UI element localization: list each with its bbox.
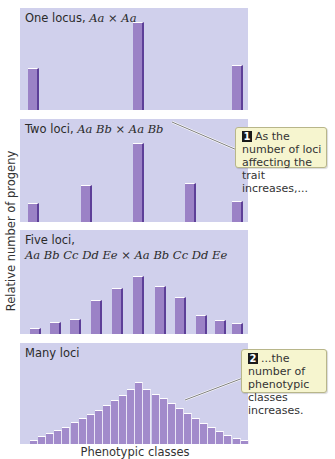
histogram-bar xyxy=(208,427,216,444)
histogram-bar xyxy=(176,408,184,444)
histogram-bar xyxy=(38,436,46,444)
histogram-bar xyxy=(46,433,54,444)
histogram-bar xyxy=(192,418,200,444)
x-axis-label: Phenotypic classes xyxy=(60,445,210,459)
panel-title-text: Five loci, xyxy=(25,234,227,247)
histogram-bar xyxy=(232,201,243,222)
histogram-bar xyxy=(127,389,135,444)
histogram-bar xyxy=(215,320,226,334)
callout-2: 2...the number of phenotypic classes inc… xyxy=(241,349,327,393)
panel-title-text: Many loci xyxy=(25,346,79,360)
histogram-bar xyxy=(71,422,79,444)
histogram-bar xyxy=(152,394,160,444)
histogram-bar xyxy=(233,438,241,444)
histogram-bar xyxy=(216,431,224,444)
y-axis-label: Relative number of progeny xyxy=(4,146,18,316)
panel-title-genotype: Aa Bb Cc Dd Ee × Aa Bb Cc Dd Ee xyxy=(25,249,227,262)
histogram-bar xyxy=(133,22,144,110)
histogram-bar xyxy=(133,276,144,334)
callout-text: As the number of loci affecting the trai… xyxy=(242,130,321,195)
histogram-bar xyxy=(50,322,61,334)
histogram-bar xyxy=(155,286,166,334)
histogram-bar xyxy=(184,413,192,444)
callout-1: 1As the number of loci affecting the tra… xyxy=(235,127,327,168)
panel-title: Many loci xyxy=(25,347,79,360)
step-number-badge: 2 xyxy=(248,353,258,364)
histogram-bar xyxy=(135,382,143,444)
panel-title-genotype: Aa × Aa xyxy=(89,11,136,25)
step-number-badge: 1 xyxy=(242,131,252,142)
histogram-bar xyxy=(62,427,70,444)
histogram-bar xyxy=(185,183,196,222)
histogram-bar xyxy=(87,414,95,444)
histogram-bar xyxy=(54,430,62,444)
histogram-bar xyxy=(111,400,119,444)
histogram-bar xyxy=(119,395,127,444)
histogram-bar xyxy=(175,297,186,334)
histogram-bar xyxy=(143,389,151,444)
panel-one-locus: One locus, Aa × Aa xyxy=(20,8,248,110)
histogram-bar xyxy=(103,405,111,444)
histogram-bar xyxy=(232,65,243,110)
panel-title: Two loci, Aa Bb × Aa Bb xyxy=(25,123,164,136)
panel-two-loci: Two loci, Aa Bb × Aa Bb xyxy=(20,119,248,222)
histogram-bar xyxy=(79,418,87,444)
histogram-bar xyxy=(160,398,168,444)
panel-five-loci: Five loci, Aa Bb Cc Dd Ee × Aa Bb Cc Dd … xyxy=(20,230,248,334)
histogram-bar xyxy=(196,315,207,334)
histogram-bar xyxy=(168,403,176,444)
panel-title: One locus, Aa × Aa xyxy=(25,12,137,25)
histogram-bar xyxy=(241,440,249,444)
histogram-bar xyxy=(91,300,102,334)
panel-many-loci: Many loci xyxy=(20,343,248,444)
histogram-bar xyxy=(112,288,123,334)
histogram-bar xyxy=(133,143,144,222)
histogram-bar xyxy=(28,68,39,110)
panel-title: Five loci, Aa Bb Cc Dd Ee × Aa Bb Cc Dd … xyxy=(25,234,227,262)
histogram-bar xyxy=(81,185,92,222)
histogram-bar xyxy=(28,203,39,222)
histogram-bar xyxy=(232,323,243,334)
histogram-bar xyxy=(200,423,208,444)
histogram-bar xyxy=(30,328,41,334)
histogram-bar xyxy=(30,440,38,444)
panel-title-text: One locus, xyxy=(25,11,89,25)
histogram-bar xyxy=(224,435,232,444)
histogram-bar xyxy=(95,410,103,444)
histogram-bar xyxy=(70,319,81,334)
panel-title-text: Two loci, xyxy=(25,122,77,136)
panel-title-genotype: Aa Bb × Aa Bb xyxy=(77,122,163,136)
